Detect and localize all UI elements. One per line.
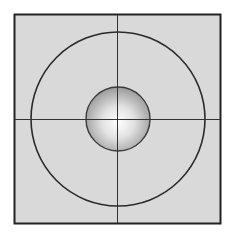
target-diagram	[0, 0, 233, 237]
